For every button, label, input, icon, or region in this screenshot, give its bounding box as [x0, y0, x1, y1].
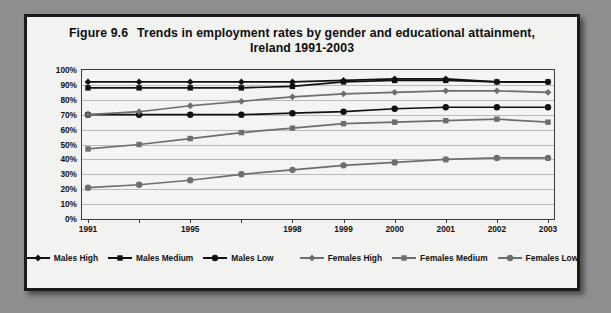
x-axis-tick-mark	[497, 219, 498, 223]
circle-icon	[498, 253, 522, 263]
data-point-marker	[494, 79, 499, 84]
data-point-marker	[494, 104, 500, 110]
chart-legend: Males HighMales MediumMales LowFemales H…	[27, 253, 577, 263]
data-point-marker	[238, 98, 245, 105]
series-layer	[82, 70, 554, 219]
data-point-marker	[85, 79, 92, 86]
data-point-marker	[340, 162, 346, 168]
data-point-marker	[136, 142, 141, 147]
data-point-marker	[188, 136, 193, 141]
circle-icon	[203, 253, 227, 263]
x-axis-tick-mark	[292, 219, 293, 223]
x-axis-tick-mark	[139, 219, 140, 223]
data-point-marker	[85, 185, 91, 191]
diamond-icon	[26, 253, 50, 263]
x-axis-tick-label: 1999	[334, 224, 352, 234]
data-point-marker	[136, 79, 143, 86]
y-axis-tick-label: 30%	[60, 169, 77, 179]
data-point-marker	[443, 118, 448, 123]
x-axis-tick-mark	[344, 219, 345, 223]
data-point-marker	[136, 85, 141, 90]
series-males-medium	[85, 78, 550, 91]
legend-label: Males Low	[231, 253, 273, 263]
data-point-marker	[545, 89, 552, 96]
diamond-icon	[300, 253, 324, 263]
data-point-marker	[443, 104, 449, 110]
data-point-marker	[506, 255, 512, 261]
data-point-marker	[187, 112, 193, 118]
data-point-marker	[290, 125, 295, 130]
legend-label: Females Medium	[420, 253, 488, 263]
data-point-marker	[545, 155, 551, 161]
series-females-low	[85, 155, 551, 191]
data-point-marker	[85, 111, 92, 118]
series-line	[88, 91, 548, 115]
legend-label: Females Low	[526, 253, 579, 263]
series-line	[88, 119, 548, 149]
x-axis-tick-mark	[395, 219, 396, 223]
data-point-marker	[289, 167, 295, 173]
data-point-marker	[187, 102, 194, 109]
data-point-marker	[289, 110, 295, 116]
data-point-marker	[545, 79, 550, 84]
data-point-marker	[136, 182, 142, 188]
y-axis-tick-label: 10%	[60, 199, 77, 209]
plot-container: 0%10%20%30%40%50%60%70%80%90%100% 199119…	[41, 63, 563, 241]
figure-title-line-1: Trends in employment rates by gender and…	[137, 26, 535, 40]
figure-number: Figure 9.6	[69, 26, 128, 40]
y-axis-tick-label: 70%	[60, 110, 77, 120]
x-axis-tick-mark	[190, 219, 191, 223]
figure-title: Figure 9.6Trends in employment rates by …	[27, 17, 577, 60]
x-axis-tick-mark	[88, 219, 89, 223]
x-axis-tick-mark	[446, 219, 447, 223]
data-point-marker	[341, 79, 346, 84]
y-axis-tick-label: 60%	[60, 125, 77, 135]
x-axis-tick-label: 2002	[488, 224, 506, 234]
data-point-marker	[187, 79, 194, 86]
data-point-marker	[239, 130, 244, 135]
y-axis-tick-label: 0%	[65, 214, 77, 224]
data-point-marker	[85, 85, 90, 90]
y-axis-tick-label: 40%	[60, 154, 77, 164]
legend-item-males-medium[interactable]: Males Medium	[108, 253, 193, 263]
data-point-marker	[238, 171, 244, 177]
data-point-marker	[341, 121, 346, 126]
legend-label: Males High	[54, 253, 98, 263]
data-point-marker	[340, 109, 346, 115]
legend-label: Males Medium	[136, 253, 193, 263]
x-axis-tick-label: 1998	[283, 224, 301, 234]
plot-area: 0%10%20%30%40%50%60%70%80%90%100% 199119…	[81, 69, 555, 220]
legend-item-females-medium[interactable]: Females Medium	[392, 253, 488, 263]
y-axis-tick-label: 80%	[60, 95, 77, 105]
data-point-marker	[290, 84, 295, 89]
x-axis-tick-mark	[241, 219, 242, 223]
y-axis-tick-label: 100%	[56, 65, 77, 75]
series-males-low	[85, 104, 551, 118]
legend-item-females-low[interactable]: Females Low	[498, 253, 579, 263]
data-point-marker	[187, 177, 193, 183]
x-axis-tick-label: 2000	[385, 224, 403, 234]
series-line	[88, 107, 548, 114]
legend-item-males-high[interactable]: Males High	[26, 253, 98, 263]
data-point-marker	[493, 87, 500, 94]
data-point-marker	[289, 93, 296, 100]
y-axis-tick-label: 20%	[60, 184, 77, 194]
data-point-marker	[391, 106, 397, 112]
data-point-marker	[238, 112, 244, 118]
figure-title-line-2: Ireland 1991-2003	[250, 41, 354, 55]
legend-item-males-low[interactable]: Males Low	[203, 253, 273, 263]
legend-label: Females High	[328, 253, 382, 263]
data-point-marker	[340, 90, 347, 97]
data-point-marker	[545, 104, 551, 110]
data-point-marker	[85, 146, 90, 151]
data-point-marker	[391, 89, 398, 96]
data-point-marker	[494, 155, 500, 161]
data-point-marker	[188, 85, 193, 90]
data-point-marker	[238, 79, 245, 86]
data-point-marker	[391, 159, 397, 165]
y-axis-tick-label: 50%	[60, 140, 77, 150]
data-point-marker	[443, 78, 448, 83]
legend-item-females-high[interactable]: Females High	[300, 253, 382, 263]
data-point-marker	[401, 255, 406, 260]
data-point-marker	[308, 255, 315, 262]
